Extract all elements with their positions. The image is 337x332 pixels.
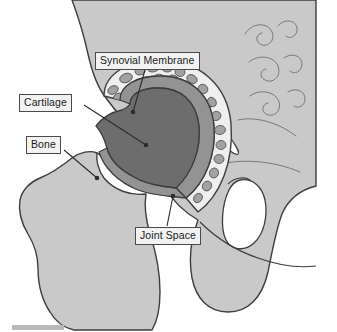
label-cartilage: Cartilage bbox=[19, 94, 72, 112]
label-bone: Bone bbox=[26, 136, 61, 154]
leader-joint-space bbox=[167, 196, 173, 226]
label-synovial-membrane: Synovial Membrane bbox=[95, 52, 200, 70]
hip-joint-diagram: Synovial Membrane Cartilage Bone Joint S… bbox=[0, 0, 337, 332]
anatomy-illustration bbox=[0, 0, 337, 332]
scan-artifact-bar bbox=[12, 325, 64, 330]
label-joint-space: Joint Space bbox=[135, 227, 201, 245]
